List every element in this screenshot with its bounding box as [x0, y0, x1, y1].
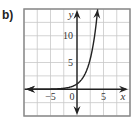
y-tick-label: 10: [63, 30, 73, 41]
y-tick-label: 5: [68, 57, 73, 68]
x-tick-label: 5: [101, 91, 106, 102]
x-tick-label: 0: [70, 91, 75, 102]
x-tick-label: −5: [45, 91, 56, 102]
chart: −505510xy: [0, 0, 135, 119]
series-layer: [25, 9, 101, 92]
y-axis-label: y: [68, 8, 74, 20]
x-axis-label: x: [120, 90, 126, 102]
